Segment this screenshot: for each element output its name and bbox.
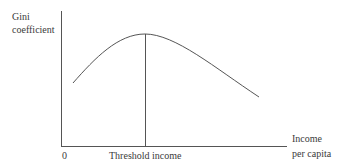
origin-label: 0 — [62, 150, 67, 162]
x-axis-label-line2: per capita — [292, 148, 331, 160]
kuznets-curve-diagram: Gini coefficient Income per capita 0 Thr… — [0, 0, 349, 166]
threshold-income-label: Threshold income — [109, 150, 181, 162]
x-axis-label-line1: Income — [292, 133, 322, 145]
kuznets-curve — [73, 34, 259, 97]
